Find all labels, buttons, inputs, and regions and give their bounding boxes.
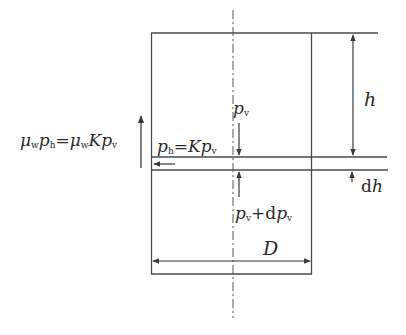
diameter-label: D [263,239,278,258]
wall-friction-label: μwph=μwKpv [20,132,117,150]
pv-top-label: pv [233,100,249,118]
ph-label: ph=Kpv [157,138,217,156]
diagram-lines [0,0,406,335]
pv-bottom-label: pv+dpv [235,205,292,223]
silo-diagram: h dh D pv pv+dpv ph=Kpv μwph=μwKpv [0,0,406,335]
dh-label: dh [361,178,383,195]
height-label: h [364,90,376,109]
